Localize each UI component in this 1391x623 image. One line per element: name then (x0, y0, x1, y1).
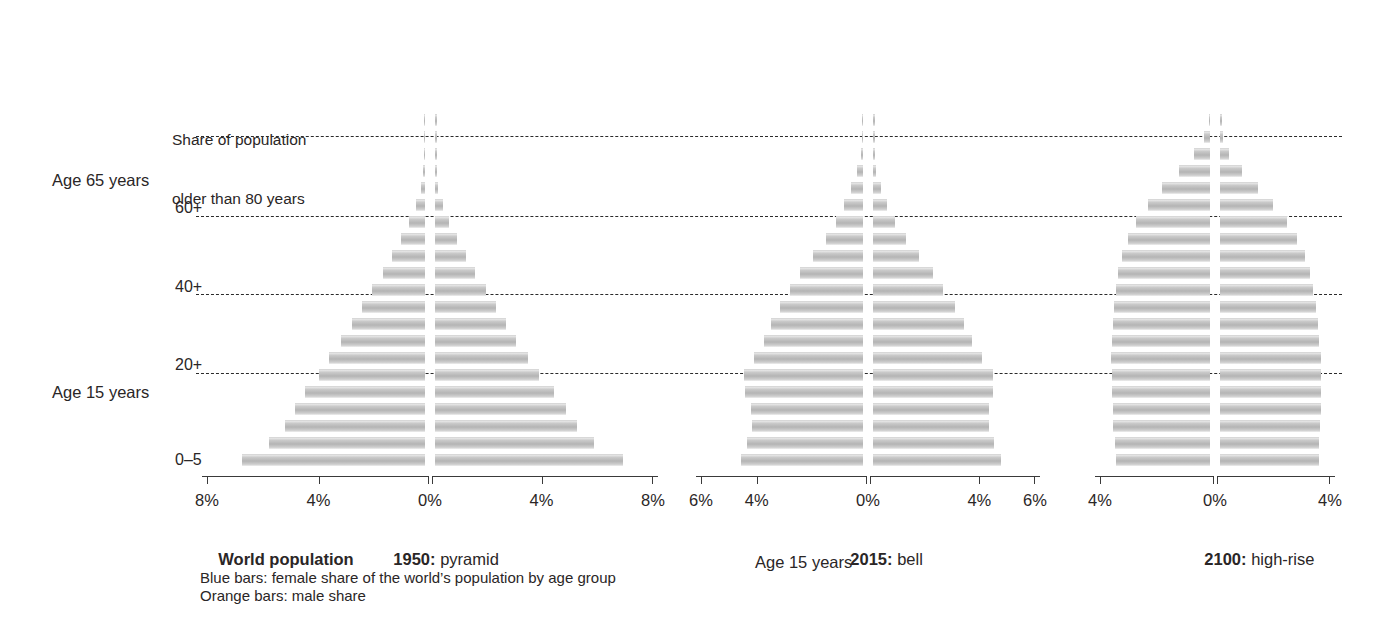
side-label-age-15: Age 15 years (52, 382, 149, 403)
bar-female-95-100 (424, 131, 426, 143)
bar-male-25-30 (873, 369, 993, 381)
axis-tick-label-1-0: 6% (684, 490, 718, 511)
axis-tick-1-3 (979, 476, 980, 484)
bar-male-60-65 (435, 250, 466, 262)
bar-male-60-65 (1220, 250, 1305, 262)
bar-male-35-40 (1220, 335, 1319, 347)
bar-male-55-60 (1220, 267, 1310, 279)
bar-female-5-10 (747, 437, 863, 449)
bar-male-85-90 (1220, 165, 1242, 177)
axis-tick-0-1 (319, 476, 320, 484)
axis-tick-0-3 (542, 476, 543, 484)
bar-female-65-70 (1128, 233, 1210, 245)
axis-line-left-0 (202, 476, 428, 477)
bar-female-60-65 (392, 250, 425, 262)
bar-female-95-100 (1204, 131, 1210, 143)
axis-line-left-1 (696, 476, 866, 477)
bar-male-45-50 (1220, 301, 1316, 313)
axis-tick-zero-right-2 (1217, 476, 1218, 484)
stray-label-age-15: Age 15 years (755, 552, 852, 573)
bar-male-25-30 (435, 369, 539, 381)
caption-1950-year: 1950: (393, 550, 435, 568)
bar-male-90-95 (435, 148, 437, 160)
bar-male-25-30 (1220, 369, 1321, 381)
bar-female-15-20 (751, 403, 863, 415)
bar-female-20-25 (1112, 386, 1210, 398)
bar-female-90-95 (1194, 148, 1210, 160)
bar-female-85-90 (857, 165, 863, 177)
bar-female-80-85 (421, 182, 425, 194)
bar-female-75-80 (416, 199, 425, 211)
bar-male-100+ (1220, 114, 1222, 126)
bar-female-0-5 (741, 454, 863, 466)
bar-male-15-20 (1220, 403, 1321, 415)
axis-tick-label-2-2: 4% (1313, 490, 1347, 511)
bar-male-90-95 (873, 148, 875, 160)
bar-female-35-40 (764, 335, 863, 347)
bar-male-20-25 (435, 386, 554, 398)
bar-female-25-30 (319, 369, 425, 381)
bar-female-15-20 (1113, 403, 1210, 415)
bar-male-10-15 (435, 420, 577, 432)
bar-male-0-5 (1220, 454, 1319, 466)
bar-female-50-55 (372, 284, 425, 296)
bar-male-65-70 (873, 233, 906, 245)
bar-female-80-85 (851, 182, 863, 194)
bar-female-70-75 (836, 216, 863, 228)
bar-male-0-5 (873, 454, 1001, 466)
axis-tick-end-1-4 (1034, 476, 1035, 484)
legend-female: Blue bars: female share of the world’s p… (200, 568, 616, 587)
bar-female-65-70 (401, 233, 425, 245)
bar-male-75-80 (1220, 199, 1273, 211)
bar-female-60-65 (1122, 250, 1210, 262)
side-label-age-65: Age 65 years (52, 170, 149, 191)
bar-female-15-20 (295, 403, 425, 415)
axis-tick-label-1-1: 4% (740, 490, 774, 511)
axis-line-right-0 (432, 476, 658, 477)
bar-female-0-5 (1116, 454, 1210, 466)
axis-tick-end-0-0 (207, 476, 208, 484)
bar-male-80-85 (873, 182, 881, 194)
bar-female-30-35 (329, 352, 425, 364)
bar-male-55-60 (873, 267, 933, 279)
caption-2100-shape: high-rise (1247, 550, 1315, 568)
bar-female-25-30 (1112, 369, 1210, 381)
legend-male: Orange bars: male share (200, 586, 366, 605)
axis-line-right-2 (1217, 476, 1335, 477)
axis-tick-label-0-1: 4% (302, 490, 336, 511)
bar-female-55-60 (383, 267, 425, 279)
bar-male-5-10 (873, 437, 994, 449)
bar-male-40-45 (1220, 318, 1318, 330)
bar-male-80-85 (1220, 182, 1258, 194)
bar-female-25-30 (744, 369, 863, 381)
bar-male-50-55 (873, 284, 943, 296)
bar-female-50-55 (790, 284, 863, 296)
axis-tick-label-1-2: 0% (851, 490, 885, 511)
bar-female-80-85 (1162, 182, 1210, 194)
bar-male-60-65 (873, 250, 919, 262)
axis-tick-zero-left-2 (1213, 476, 1214, 484)
bar-female-75-80 (1148, 199, 1210, 211)
bar-female-35-40 (341, 335, 425, 347)
bar-female-40-45 (352, 318, 425, 330)
bar-male-80-85 (435, 182, 438, 194)
bar-male-10-15 (873, 420, 989, 432)
axis-tick-label-0-3: 4% (525, 490, 559, 511)
bar-male-70-75 (1220, 216, 1287, 228)
bar-female-45-50 (1114, 301, 1210, 313)
bar-male-50-55 (435, 284, 486, 296)
axis-tick-label-2-0: 4% (1083, 490, 1117, 511)
axis-tick-zero-left-0 (428, 476, 429, 484)
population-pyramid-figure: Age 65 years Age 15 years Share of popul… (0, 0, 1391, 623)
bar-female-85-90 (1179, 165, 1210, 177)
bar-female-5-10 (1115, 437, 1210, 449)
bar-male-45-50 (435, 301, 496, 313)
bar-male-35-40 (435, 335, 516, 347)
bar-female-65-70 (826, 233, 863, 245)
bar-male-100+ (435, 114, 437, 126)
bar-male-15-20 (435, 403, 566, 415)
caption-1950-shape: pyramid (436, 550, 499, 568)
bar-female-40-45 (771, 318, 863, 330)
bar-male-35-40 (873, 335, 972, 347)
caption-2100: 2100: high-rise (1186, 528, 1314, 591)
